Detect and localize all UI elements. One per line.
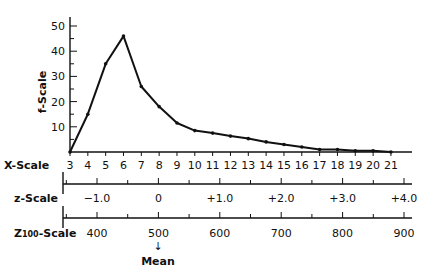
z100-scale-label: Z100-Scale: [14, 227, 76, 240]
data-point: [371, 149, 375, 153]
data-point: [104, 62, 108, 66]
x-tick-label: 18: [330, 159, 344, 172]
data-point: [389, 150, 393, 154]
x-scale-label: X-Scale: [4, 159, 49, 172]
data-point: [247, 137, 251, 141]
data-point: [282, 143, 286, 147]
y-tick-label: 30: [51, 70, 65, 83]
x-tick-label: 20: [366, 159, 380, 172]
data-series: [68, 34, 393, 154]
data-point: [175, 121, 179, 125]
x-tick-label: 6: [120, 159, 127, 172]
z-scale-label: z-Scale: [14, 192, 58, 205]
scale-tick-label: +2.0: [268, 192, 295, 205]
x-tick-label: 3: [67, 159, 74, 172]
y-axis: 1020304050: [51, 17, 77, 152]
x-tick-label: 5: [102, 159, 109, 172]
x-tick-label: 8: [156, 159, 163, 172]
x-tick-label: 7: [138, 159, 145, 172]
data-point: [264, 140, 268, 144]
data-point: [157, 105, 161, 109]
data-point: [193, 129, 197, 133]
x-tick-label: 4: [84, 159, 91, 172]
scale-tick-label: 0: [155, 192, 162, 205]
x-tick-label: 15: [277, 159, 291, 172]
scale-tick-label: +1.0: [206, 192, 233, 205]
data-point: [353, 149, 357, 153]
x-tick-label: 17: [313, 159, 327, 172]
x-tick-label: 12: [223, 159, 237, 172]
x-tick-label: 19: [348, 159, 362, 172]
data-point: [318, 148, 322, 152]
scale-tick-label: 400: [87, 227, 108, 240]
data-point: [229, 134, 233, 138]
data-point: [86, 112, 90, 116]
x-axis: 3456789101112131415161718192021: [67, 152, 413, 172]
data-point: [211, 131, 215, 135]
y-tick-label: 50: [51, 20, 65, 33]
data-point: [140, 85, 144, 89]
scale-tick-label: −1.0: [84, 192, 111, 205]
data-point: [336, 148, 340, 152]
mean-arrow-icon: ↓: [153, 240, 162, 253]
x-tick-label: 16: [295, 159, 309, 172]
scale-tick-label: 500: [148, 227, 169, 240]
frequency-chart: 1020304050 f-Scale 345678910111213141516…: [0, 0, 425, 275]
x-tick-label: 14: [259, 159, 273, 172]
scale-tick-label: 800: [332, 227, 353, 240]
y-tick-label: 40: [51, 45, 65, 58]
scale-tick-label: +3.0: [329, 192, 356, 205]
mean-annotation: Mean: [141, 255, 175, 268]
x-tick-label: 10: [188, 159, 202, 172]
x-tick-label: 13: [241, 159, 255, 172]
scale-tick-label: +4.0: [391, 192, 418, 205]
y-tick-label: 10: [51, 121, 65, 134]
x-tick-label: 21: [384, 159, 398, 172]
y-tick-label: 20: [51, 96, 65, 109]
z-scale-axis: −1.00+1.0+2.0+3.0+4.0: [63, 172, 417, 205]
data-point: [300, 145, 304, 149]
z100-scale-axis: 400500600700800900: [63, 206, 415, 240]
x-tick-label: 11: [206, 159, 220, 172]
scale-tick-label: 700: [271, 227, 292, 240]
scale-tick-label: 600: [209, 227, 230, 240]
f-scale-label: f-Scale: [36, 71, 49, 113]
x-tick-label: 9: [173, 159, 180, 172]
data-point: [122, 34, 126, 38]
data-point: [68, 150, 72, 154]
scale-tick-label: 900: [394, 227, 415, 240]
